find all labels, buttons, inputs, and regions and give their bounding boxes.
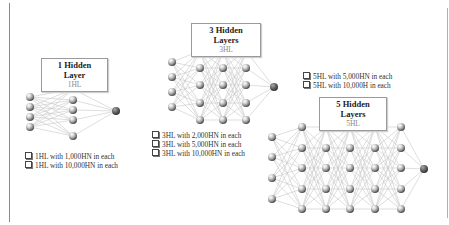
panel-1-title-box: 1 Hidden Layer 1HL (41, 58, 108, 92)
network-edge (401, 169, 424, 189)
input-node-icon (26, 93, 34, 101)
network-edge (246, 85, 274, 87)
network-edge (73, 100, 116, 111)
network-edge (401, 148, 424, 169)
right-divider-line (447, 8, 448, 218)
input-node-icon (26, 113, 34, 121)
panel-3-title: 5 Hidden Layers (324, 99, 382, 119)
option-3hl-5000[interactable]: 3HL with 5,000HN in each (152, 140, 245, 149)
hidden-node-icon (346, 144, 354, 152)
checkbox-icon[interactable] (25, 161, 32, 168)
option-3hl-2000[interactable]: 3HL with 2,000HN in each (152, 131, 245, 140)
checkbox-icon[interactable] (152, 140, 159, 147)
option-5hl-10000[interactable]: 5HL with 10,000H in each (303, 81, 392, 90)
network-edge (172, 62, 200, 68)
hidden-node-icon (219, 64, 227, 72)
network-edge (246, 68, 274, 87)
panel-3-options: 5HL with 5,000HN in each 5HL with 10,000… (303, 72, 392, 90)
network-edge (246, 87, 274, 103)
hidden-node-icon (346, 164, 354, 172)
hidden-node-icon (346, 205, 354, 213)
hidden-node-icon (298, 164, 306, 172)
option-1hl-1000[interactable]: 1HL with 1,000HN in each (25, 152, 118, 161)
hidden-node-icon (69, 116, 77, 124)
input-node-icon (26, 123, 34, 131)
panel-3-subtitle: 5HL (324, 119, 382, 129)
checkbox-icon[interactable] (303, 81, 310, 88)
panel-2-subtitle: 3HL (196, 45, 256, 55)
hidden-node-icon (298, 123, 306, 131)
panel-1-subtitle: 1HL (46, 80, 103, 90)
checkbox-icon[interactable] (152, 149, 159, 156)
hidden-node-icon (397, 123, 405, 131)
hidden-node-icon (196, 81, 204, 89)
hidden-node-icon (69, 106, 77, 114)
output-node-icon (112, 107, 120, 115)
input-node-icon (268, 195, 276, 203)
network-edge (73, 111, 116, 136)
input-node-icon (268, 153, 276, 161)
input-node-icon (268, 133, 276, 141)
checkbox-icon[interactable] (25, 152, 32, 159)
network-edge (272, 127, 302, 137)
hidden-node-icon (69, 96, 77, 104)
input-node-icon (168, 58, 176, 66)
hidden-node-icon (371, 144, 379, 152)
panel-2-title-box: 3 Hidden Layers 3HL (191, 23, 261, 57)
network-edge (172, 68, 200, 77)
network-edge (30, 100, 73, 107)
hidden-node-icon (219, 99, 227, 107)
hidden-node-icon (196, 99, 204, 107)
hidden-node-icon (298, 185, 306, 193)
hidden-node-icon (242, 81, 250, 89)
hidden-node-icon (196, 64, 204, 72)
network-edge (30, 97, 73, 100)
output-node-icon (270, 83, 278, 91)
hidden-node-icon (196, 116, 204, 124)
hidden-node-icon (397, 144, 405, 152)
input-node-icon (26, 103, 34, 111)
diagram-stage: 1 Hidden Layer 1HL 1HL with 1,000HN in e… (0, 0, 449, 225)
network-edge (73, 111, 116, 120)
panel-1-options: 1HL with 1,000HN in each 1HL with 10,000… (25, 152, 118, 170)
network-edge (73, 89, 116, 111)
option-1hl-10000[interactable]: 1HL with 10,000HN in each (25, 161, 118, 170)
network-edge (272, 137, 302, 148)
panel-1-title: 1 Hidden Layer (46, 60, 103, 80)
hidden-node-icon (322, 205, 330, 213)
panel-2-title: 3 Hidden Layers (196, 25, 256, 45)
hidden-node-icon (371, 164, 379, 172)
checkbox-icon[interactable] (303, 72, 310, 79)
input-node-icon (268, 174, 276, 182)
hidden-node-icon (322, 164, 330, 172)
checkbox-icon[interactable] (152, 131, 159, 138)
left-divider-line (9, 3, 10, 222)
output-node-icon (420, 165, 428, 173)
hidden-node-icon (242, 64, 250, 72)
hidden-node-icon (242, 99, 250, 107)
hidden-node-icon (397, 164, 405, 172)
network-edge (73, 110, 116, 111)
panel-2-options: 3HL with 2,000HN in each 3HL with 5,000H… (152, 131, 245, 158)
hidden-node-icon (242, 116, 250, 124)
input-node-icon (168, 103, 176, 111)
hidden-node-icon (322, 144, 330, 152)
panel-3-title-box: 5 Hidden Layers 5HL (319, 97, 387, 131)
hidden-node-icon (298, 144, 306, 152)
hidden-node-icon (219, 116, 227, 124)
option-5hl-5000[interactable]: 5HL with 5,000HN in each (303, 72, 392, 81)
network-edge (246, 87, 274, 120)
hidden-node-icon (219, 81, 227, 89)
hidden-node-icon (322, 185, 330, 193)
input-node-icon (168, 88, 176, 96)
hidden-node-icon (371, 205, 379, 213)
hidden-node-icon (298, 205, 306, 213)
option-3hl-10000[interactable]: 3HL with 10,000HN in each (152, 149, 245, 158)
hidden-node-icon (346, 185, 354, 193)
input-node-icon (168, 73, 176, 81)
hidden-node-icon (397, 205, 405, 213)
network-edge (172, 62, 200, 103)
hidden-node-icon (371, 185, 379, 193)
hidden-node-icon (397, 185, 405, 193)
hidden-node-icon (69, 132, 77, 140)
